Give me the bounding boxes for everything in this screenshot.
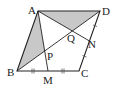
label-q: Q [67, 32, 75, 44]
label-d: D [102, 5, 110, 17]
label-p: P [47, 50, 53, 62]
parallelogram-figure: A D B C M N P Q [0, 0, 116, 91]
label-a: A [28, 4, 36, 16]
label-m: M [43, 74, 53, 86]
label-b: B [7, 66, 14, 78]
shaded-triangle-abp [17, 11, 45, 71]
label-n: N [88, 38, 96, 50]
shaded-triangle-aqd [38, 11, 100, 31]
label-c: C [81, 67, 88, 79]
geometry-diagram: A D B C M N P Q [0, 0, 116, 91]
